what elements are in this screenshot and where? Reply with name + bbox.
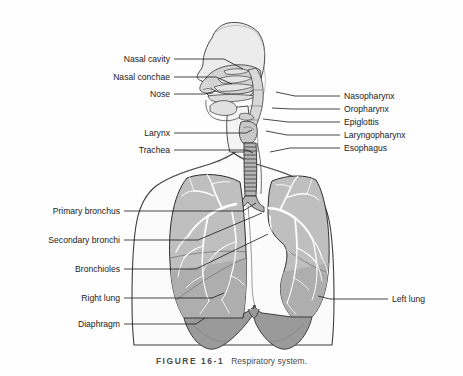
label-bronchioles: Bronchioles bbox=[75, 264, 120, 274]
leader-line-laryngopharynx bbox=[266, 131, 340, 135]
leader-line-oropharynx bbox=[272, 108, 340, 109]
figure-number: FIGURE 16-1 bbox=[156, 356, 224, 366]
label-nasopharynx: Nasopharynx bbox=[344, 91, 395, 101]
label-right-lung: Right lung bbox=[81, 293, 120, 303]
label-larynx: Larynx bbox=[144, 128, 170, 138]
label-trachea: Trachea bbox=[139, 145, 170, 155]
label-diaphragm: Diaphragm bbox=[78, 319, 120, 329]
leader-line-nasopharynx bbox=[276, 92, 340, 96]
label-secondary-bronchi: Secondary bronchi bbox=[48, 235, 120, 245]
trachea bbox=[244, 143, 257, 196]
label-nasal-cavity: Nasal cavity bbox=[124, 54, 171, 64]
anatomy-illustration: Nasal cavityNasal conchaeNoseLarynxTrach… bbox=[0, 0, 463, 376]
label-epiglottis: Epiglottis bbox=[344, 117, 379, 127]
figure-title: Respiratory system. bbox=[231, 356, 307, 366]
respiratory-system-figure: Nasal cavityNasal conchaeNoseLarynxTrach… bbox=[0, 0, 463, 376]
leader-line-epiglottis bbox=[263, 119, 340, 122]
label-primary-bronchus: Primary bronchus bbox=[53, 206, 120, 216]
right-lung bbox=[166, 172, 250, 322]
figure-caption: FIGURE 16-1Respiratory system. bbox=[0, 350, 463, 368]
label-nose: Nose bbox=[150, 89, 170, 99]
label-oropharynx: Oropharynx bbox=[344, 104, 390, 114]
leader-line-esophagus bbox=[270, 148, 340, 152]
label-left-lung: Left lung bbox=[392, 294, 425, 304]
label-nasal-conchae: Nasal conchae bbox=[113, 72, 170, 82]
label-laryngopharynx: Laryngopharynx bbox=[344, 130, 406, 140]
label-esophagus: Esophagus bbox=[344, 143, 387, 153]
